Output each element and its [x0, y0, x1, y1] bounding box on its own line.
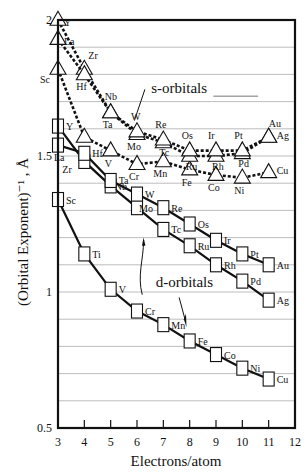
square-marker: [184, 239, 195, 253]
element-label: Y: [64, 17, 71, 28]
square-marker: [237, 274, 248, 288]
element-label: Nb: [105, 91, 117, 102]
square-marker: [237, 247, 248, 261]
element-label: La: [64, 36, 75, 47]
element-label: Ni: [250, 363, 260, 374]
element-label: Mn: [171, 320, 185, 331]
x-tick-label: 4: [81, 435, 87, 449]
triangle-marker: [129, 123, 145, 137]
square-marker: [211, 348, 222, 362]
square-marker: [79, 247, 90, 261]
element-label: Ni: [234, 185, 244, 196]
element-label: Ag: [277, 130, 289, 141]
element-label: Ta: [119, 175, 129, 186]
y-axis-label: (Orbital Exponent)⁻¹ , Å: [15, 158, 32, 306]
y-tick-label: 2: [46, 13, 52, 27]
square-marker: [132, 187, 143, 201]
element-label: Sc: [66, 195, 77, 206]
element-label: Mo: [139, 203, 153, 214]
element-label: V: [105, 158, 113, 169]
triangle-marker: [182, 142, 198, 156]
triangle-marker: [261, 164, 277, 178]
element-label: Hf: [76, 81, 87, 92]
element-label: Co: [208, 182, 220, 193]
element-label: V: [119, 284, 127, 295]
annotations: s-orbitalsd-orbitals: [134, 80, 258, 327]
x-axis-ticks: 3456789101112: [55, 420, 301, 449]
x-tick-label: 8: [187, 435, 193, 449]
square-marker: [184, 334, 195, 348]
orbital-exponent-chart: ScTiVCrMnFeCoNiCuYZrNbMoTcRuRhPdAgLaHfTa…: [0, 0, 307, 476]
square-marker: [105, 282, 116, 296]
element-label: Zr: [88, 50, 98, 61]
x-tick-label: 7: [160, 435, 166, 449]
element-label: Ti: [92, 249, 101, 260]
element-label: W: [145, 189, 155, 200]
series-layer: ScTiVCrMnFeCoNiCuYZrNbMoTcRuRhPdAgLaHfTa…: [40, 11, 289, 386]
element-label: Tc: [159, 147, 169, 158]
element-label: Cr: [145, 306, 156, 317]
square-marker: [211, 233, 222, 247]
element-label: Pd: [250, 276, 261, 287]
element-label: Sc: [40, 74, 51, 85]
x-tick-label: 5: [108, 435, 114, 449]
y-tick-label: 0.5: [37, 421, 52, 435]
element-label: Co: [224, 350, 236, 361]
element-label: Au: [277, 260, 289, 271]
element-label: Tc: [171, 224, 181, 235]
element-label: Y: [66, 121, 73, 132]
element-label: Ta: [103, 119, 113, 130]
element-label: Os: [198, 219, 209, 230]
x-axis-label: Electrons/atom: [131, 453, 222, 469]
x-tick-label: 9: [213, 435, 219, 449]
triangle-marker: [76, 128, 92, 142]
element-label: Ir: [224, 235, 231, 246]
annotation-arrow: [140, 240, 143, 294]
y-tick-label: 1.5: [37, 149, 52, 163]
square-marker: [132, 304, 143, 318]
x-tick-label: 11: [263, 435, 275, 449]
square-marker: [263, 293, 274, 307]
element-label: Fe: [198, 336, 209, 347]
x-tick-label: 10: [236, 435, 248, 449]
element-label: Pt: [250, 249, 259, 260]
element-label: Ru: [186, 161, 198, 172]
element-label: Ir: [208, 130, 215, 141]
element-label: Cr: [129, 171, 140, 182]
square-marker: [237, 361, 248, 375]
element-label: Zr: [62, 164, 72, 175]
square-marker: [158, 318, 169, 332]
square-marker: [263, 258, 274, 272]
square-marker: [263, 372, 274, 386]
element-label: Pd: [238, 158, 249, 169]
arrowhead-icon: [142, 238, 145, 246]
square-marker: [211, 258, 222, 272]
square-marker: [158, 222, 169, 236]
triangle-marker: [261, 128, 277, 142]
square-marker: [184, 217, 195, 231]
triangle-marker: [208, 142, 224, 156]
x-tick-label: 3: [55, 435, 61, 449]
element-label: Cu: [277, 165, 289, 176]
element-label: Os: [182, 130, 193, 141]
element-label: Rh: [212, 161, 224, 172]
element-label: Hf: [92, 148, 103, 159]
element-label: Fe: [182, 177, 193, 188]
element-label: Pt: [234, 130, 243, 141]
element-label: Au: [269, 118, 281, 129]
annotation-label: d-orbitals: [156, 274, 214, 290]
element-label: Mn: [153, 168, 167, 179]
square-marker: [79, 146, 90, 160]
triangle-marker: [155, 131, 171, 145]
element-label: La: [54, 152, 65, 163]
element-label: Mo: [127, 141, 141, 152]
element-label: Ru: [198, 241, 210, 252]
x-tick-label: 6: [134, 435, 140, 449]
element-label: Rh: [224, 260, 236, 271]
element-label: Ag: [277, 295, 289, 306]
element-label: Cu: [277, 374, 289, 385]
annotation-label: s-orbitals: [151, 80, 207, 96]
y-tick-label: 1: [46, 285, 52, 299]
element-label: Re: [171, 203, 183, 214]
square-marker: [158, 201, 169, 215]
